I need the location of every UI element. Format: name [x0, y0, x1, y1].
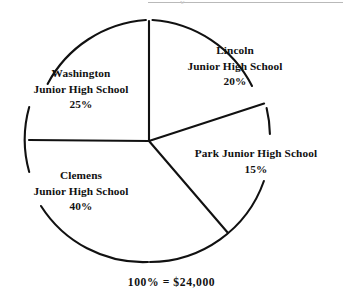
- chart-total-caption: 100% = $24,000: [0, 276, 343, 289]
- slice-label-lincoln: Lincoln Junior High School 20%: [168, 43, 302, 90]
- slice-label-washington-line2: Junior High School: [33, 83, 128, 95]
- slice-label-park: Park Junior High School 15%: [176, 146, 336, 177]
- divider-clemens-washington: [29, 140, 149, 141]
- arc-segment-park-lower: [150, 181, 264, 262]
- slice-label-lincoln-line1: Lincoln: [216, 44, 254, 56]
- slice-label-clemens-line1: Clemens: [60, 169, 102, 181]
- slice-label-lincoln-line2: Junior High School: [187, 60, 282, 72]
- arc-segment-park-upper: [267, 108, 270, 134]
- slice-label-clemens-pct: 40%: [6, 199, 156, 215]
- pie-chart-figure: y ..... ....... .... Lincoln Junior High…: [0, 0, 343, 300]
- slice-label-washington-pct: 25%: [6, 97, 156, 113]
- slice-label-lincoln-pct: 20%: [168, 74, 302, 90]
- slice-label-park-line1: Park Junior High School: [195, 147, 317, 159]
- divider-lincoln-park: [149, 104, 264, 141]
- slice-label-clemens: Clemens Junior High School 40%: [6, 168, 156, 215]
- slice-label-park-pct: 15%: [176, 162, 336, 178]
- slice-label-washington-line1: Washington: [52, 67, 111, 79]
- slice-label-clemens-line2: Junior High School: [33, 185, 128, 197]
- slice-label-washington: Washington Junior High School 25%: [6, 66, 156, 113]
